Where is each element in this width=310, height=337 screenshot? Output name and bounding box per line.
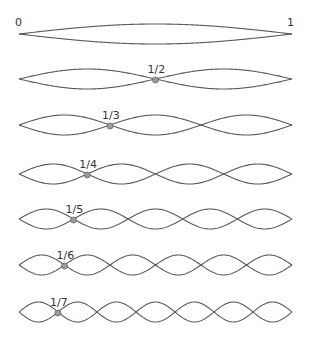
- node-marker-icon: [153, 77, 159, 83]
- node-marker-icon: [84, 172, 90, 178]
- harmonic-row-5: 1/5: [19, 203, 292, 229]
- node-label: 1/6: [57, 249, 75, 262]
- node-label: 1/7: [50, 296, 68, 309]
- endpoint-label-1: 1: [287, 16, 294, 29]
- wave-lower-envelope: [19, 164, 292, 184]
- node-marker-icon: [107, 123, 113, 129]
- harmonic-row-1: [19, 24, 292, 44]
- harmonic-row-2: 1/2: [19, 63, 292, 89]
- node-label: 1/3: [102, 109, 120, 122]
- harmonic-rows: 1/21/31/41/51/61/7: [19, 24, 292, 322]
- node-marker-icon: [62, 263, 68, 269]
- node-label: 1/5: [66, 203, 84, 216]
- node-marker-icon: [71, 217, 77, 223]
- harmonic-row-7: 1/7: [19, 296, 292, 322]
- harmonic-row-6: 1/6: [19, 249, 292, 275]
- harmonic-row-4: 1/4: [19, 158, 292, 184]
- wave-lower-envelope: [19, 115, 292, 135]
- node-label: 1/2: [148, 63, 166, 76]
- harmonic-row-3: 1/3: [19, 109, 292, 135]
- harmonics-canvas: 0 1 1/21/31/41/51/61/7: [0, 0, 310, 337]
- wave-lower-envelope: [19, 34, 292, 44]
- wave-upper-envelope: [19, 24, 292, 34]
- endpoint-label-0: 0: [15, 16, 22, 29]
- node-marker-icon: [55, 310, 61, 316]
- harmonics-diagram: 0 1 1/21/31/41/51/61/7: [0, 0, 310, 337]
- wave-upper-envelope: [19, 115, 292, 135]
- node-label: 1/4: [79, 158, 97, 171]
